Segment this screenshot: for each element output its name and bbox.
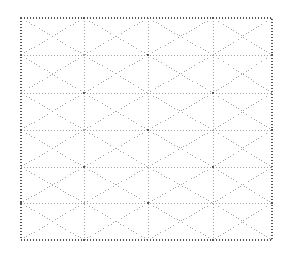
mesh-vertex-marker [20, 54, 22, 56]
mesh-vertex-marker [147, 202, 149, 204]
mesh-vertex-marker [20, 202, 22, 204]
mesh-vertex-marker [147, 129, 149, 131]
triangular-lattice-svg [0, 0, 291, 254]
mesh-vertex-marker [20, 129, 22, 131]
mesh-figure [0, 0, 291, 254]
mesh-vertex-marker [271, 54, 273, 56]
mesh-vertex-marker [212, 92, 214, 94]
mesh-vertex-marker [83, 92, 85, 94]
mesh-vertex-marker [212, 166, 214, 168]
mesh-vertex-marker [147, 54, 149, 56]
mesh-vertex-marker [83, 17, 85, 19]
figure-background [0, 0, 291, 254]
mesh-vertex-marker [212, 239, 214, 241]
mesh-vertex-marker [83, 239, 85, 241]
mesh-vertex-marker [271, 202, 273, 204]
mesh-vertex-marker [212, 17, 214, 19]
mesh-vertex-marker [83, 166, 85, 168]
mesh-vertex-marker [271, 129, 273, 131]
